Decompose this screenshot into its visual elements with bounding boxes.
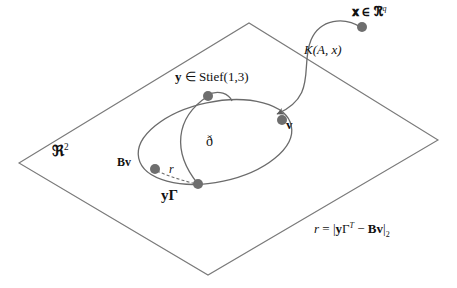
label-manifold-name: ð [206, 135, 213, 149]
label-residual-equation: r = |yΓT − Bv|2 [314, 222, 390, 239]
label-bv-point: Bv [117, 156, 131, 168]
point-y-gamma [193, 179, 203, 189]
label-v-point: v [286, 118, 293, 131]
label-residual-r: r [169, 163, 174, 175]
label-plane-name-exponent: 2 [64, 142, 69, 152]
label-ambient-point-exponent: q [383, 4, 387, 13]
label-ambient-point-text: 𝐱 ∈ ℜ [352, 4, 383, 19]
label-y-gamma-point: yΓ [161, 188, 178, 203]
label-stiefel-point: y ∈ Stief(1,3) [175, 70, 248, 83]
point-bv [150, 164, 160, 174]
manifold-ellipse [130, 87, 299, 198]
label-plane-name: ℜ2 [52, 143, 69, 159]
k-map-curve [277, 21, 362, 114]
point-x [357, 22, 367, 32]
label-ambient-point: 𝐱 ∈ ℜq [352, 5, 387, 18]
point-y [203, 91, 213, 101]
label-plane-name-symbol: ℜ [52, 142, 64, 160]
label-k-map: K(A, x) [304, 43, 342, 56]
figure-canvas: 𝐱 ∈ ℜq K(A, x) y ∈ Stief(1,3) v ð Bv r y… [0, 0, 457, 288]
